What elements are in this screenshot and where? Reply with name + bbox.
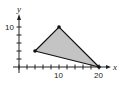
vertex-point — [97, 65, 101, 69]
y-axis — [17, 18, 22, 73]
triangle-region — [35, 27, 99, 67]
x-axis-label: x — [112, 62, 117, 72]
x-tick-label-20: 20 — [94, 71, 103, 80]
vertex-point — [33, 49, 37, 53]
x-tick-label-10: 10 — [54, 71, 63, 80]
coordinate-plane: y x 10 10 20 — [0, 0, 127, 91]
y-axis-label: y — [16, 4, 21, 14]
vertex-point — [57, 25, 61, 29]
x-axis-arrow-icon — [106, 65, 111, 69]
y-tick-label-10: 10 — [5, 23, 14, 32]
y-axis-arrow-icon — [17, 14, 21, 20]
